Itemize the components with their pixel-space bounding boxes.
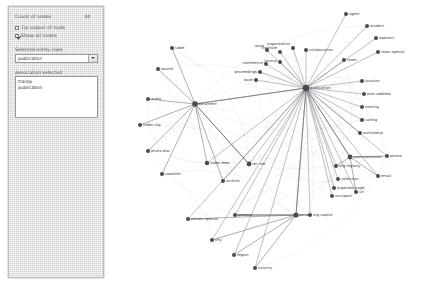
graph-node[interactable] [170, 46, 174, 50]
graph-node[interactable] [232, 253, 236, 257]
graph-edge [195, 104, 249, 164]
entity-class-select[interactable]: publication [15, 54, 98, 63]
graph-node-label: journal [263, 59, 277, 63]
checkbox-row-show-all[interactable]: Show all nodes [15, 32, 98, 40]
graph-node[interactable] [186, 217, 190, 221]
graph-node-label: phone [390, 154, 402, 158]
chevron-down-icon[interactable] [88, 55, 97, 62]
graph-node[interactable] [354, 190, 358, 194]
graph-edge [234, 215, 296, 255]
graph-node[interactable] [146, 149, 150, 153]
graph-edge [280, 52, 306, 88]
graph-node[interactable] [278, 60, 282, 64]
graph-node[interactable] [264, 62, 268, 66]
graph-node-label: person [299, 213, 312, 217]
graph-edge [212, 215, 296, 240]
graph-node[interactable] [233, 213, 237, 217]
graph-node-label: publication [310, 86, 331, 90]
graph-node-label: rec ckb [252, 162, 266, 166]
network-graph[interactable]: agentstudentaspirantteam specialteamloca… [110, 0, 440, 289]
graph-edge [256, 80, 306, 88]
control-panel: Count of nodes 44 Tip output of node Sho… [8, 6, 104, 278]
graph-node[interactable] [253, 266, 257, 270]
graph-edge [255, 215, 296, 268]
graph-node-label: cassette [165, 172, 181, 176]
graph-node[interactable] [332, 186, 336, 190]
graph-node[interactable] [376, 50, 380, 54]
graph-node[interactable] [376, 174, 380, 178]
graph-node[interactable] [160, 172, 164, 176]
graph-node-label: post address [367, 92, 391, 96]
graph-node-label: proceedings [234, 70, 257, 74]
graph-node[interactable] [205, 161, 209, 165]
graph-node[interactable] [221, 179, 225, 183]
tip-output-label: Tip output of node [21, 25, 65, 31]
graph-edge [162, 174, 212, 240]
graph-node[interactable] [374, 36, 378, 40]
graph-node[interactable] [344, 12, 348, 16]
association-list[interactable]: transp publication [15, 76, 98, 118]
graph-canvas[interactable]: agentstudentaspirantteam specialteamloca… [110, 0, 440, 289]
graph-edge [195, 26, 367, 104]
graph-edge [306, 88, 336, 166]
graph-node[interactable] [138, 123, 142, 127]
graph-node[interactable] [293, 212, 298, 217]
graph-node[interactable] [336, 177, 340, 181]
graph-node-label: video clip [143, 123, 161, 127]
graph-node[interactable] [360, 105, 364, 109]
graph-edge [195, 104, 223, 181]
graph-node[interactable] [342, 58, 346, 62]
graph-node[interactable] [146, 97, 150, 101]
list-item[interactable]: publication [18, 85, 95, 91]
graph-edge [207, 94, 364, 164]
graph-node[interactable] [254, 78, 258, 82]
graph-node[interactable] [265, 48, 269, 52]
graph-edge [172, 48, 362, 91]
graph-node-label: org capital [313, 213, 333, 217]
graph-edge [207, 88, 306, 163]
graph-node[interactable] [362, 92, 366, 96]
graph-node[interactable] [210, 238, 214, 242]
graph-edge [255, 156, 387, 268]
graph-node-label: video feed [210, 161, 229, 165]
graph-edge [249, 88, 306, 164]
graph-node-label: audio [151, 97, 162, 101]
graph-node[interactable] [330, 194, 334, 198]
graph-edge [158, 69, 195, 104]
graph-node-label: communication [353, 155, 382, 159]
graph-node[interactable] [258, 70, 262, 74]
graph-edge [172, 48, 195, 104]
graph-node[interactable] [192, 101, 198, 107]
graph-node-label: institute [262, 46, 278, 50]
graph-edge [195, 76, 362, 104]
graph-node[interactable] [156, 67, 160, 71]
graph-node-label: country [258, 266, 273, 270]
graph-node[interactable] [360, 118, 364, 122]
tip-output-checkbox[interactable] [15, 26, 19, 30]
graph-node-label: city [215, 238, 222, 242]
graph-node-label: student [370, 24, 385, 28]
graph-edge [306, 88, 310, 215]
show-all-nodes-checkbox[interactable] [15, 34, 19, 38]
graph-node[interactable] [334, 164, 338, 168]
entity-class-label: Selected entity class [15, 47, 98, 52]
graph-node-label: agent [349, 12, 360, 16]
graph-node-label: authorship [363, 131, 383, 135]
graph-node[interactable] [365, 24, 369, 28]
graph-node[interactable] [348, 155, 353, 160]
graph-node-label: region [237, 253, 249, 257]
graph-node[interactable] [247, 162, 252, 167]
graph-node-label: team special [381, 50, 405, 54]
checkbox-row-tip-output[interactable]: Tip output of node [15, 24, 98, 32]
graph-node[interactable] [303, 85, 309, 91]
graph-edge [255, 88, 306, 268]
graph-node[interactable] [358, 131, 362, 135]
graph-node-label: issue [255, 44, 265, 48]
node-count-row: Count of nodes 44 [15, 12, 98, 21]
graph-node[interactable] [304, 48, 308, 52]
node-count-label: Count of nodes [15, 14, 51, 20]
graph-node[interactable] [360, 79, 364, 83]
graph-node[interactable] [385, 154, 389, 158]
graph-node[interactable] [278, 50, 282, 54]
graph-node[interactable] [291, 46, 295, 50]
